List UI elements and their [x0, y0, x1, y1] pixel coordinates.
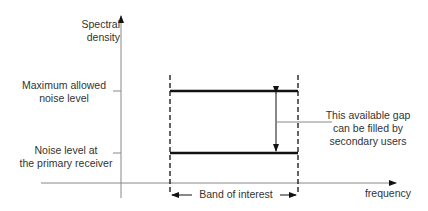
noise-level-label: Noise level at the primary receiver: [14, 144, 118, 170]
gap-callout-label: This available gap can be filled by seco…: [318, 109, 418, 148]
max-level-label-line: noise level: [14, 92, 114, 105]
gap-callout-line-text: secondary users: [318, 135, 418, 148]
y-axis-label-line: density: [70, 31, 120, 44]
gap-callout-line-text: This available gap: [318, 109, 418, 122]
band-of-interest-label: Band of interest: [193, 188, 279, 201]
noise-level-label-line: Noise level at: [14, 144, 118, 157]
max-level-label: Maximum allowed noise level: [14, 79, 114, 105]
max-level-label-line: Maximum allowed: [14, 79, 114, 92]
x-axis-label: frequency: [358, 187, 418, 200]
y-axis-label-line: Spectral: [70, 18, 120, 31]
noise-level-label-line: the primary receiver: [14, 157, 118, 170]
gap-callout-line-text: can be filled by: [318, 122, 418, 135]
y-axis-label: Spectral density: [70, 18, 120, 44]
diagram-canvas: [0, 0, 428, 211]
